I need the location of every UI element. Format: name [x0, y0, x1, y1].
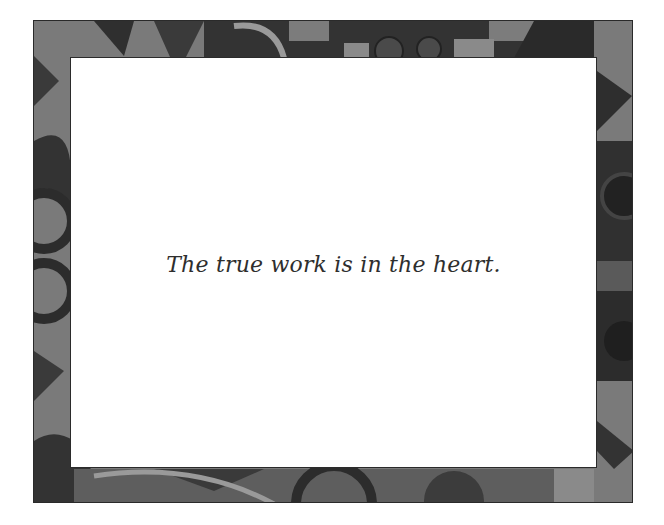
quote-text: The true work is in the heart. — [166, 252, 501, 277]
quote-card: The true work is in the heart. — [70, 57, 597, 468]
